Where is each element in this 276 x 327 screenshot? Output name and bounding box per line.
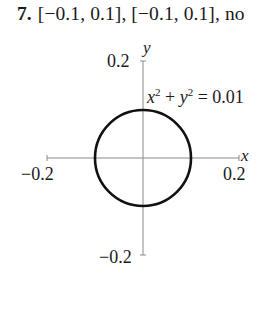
y-tick-label-max: 0.2: [107, 52, 130, 70]
x-tick-label-min: −0.2: [21, 165, 54, 183]
equation-label: x2 + y2 = 0.01: [147, 88, 244, 106]
y-tick-label-min: −0.2: [99, 248, 132, 266]
y-axis-label: y: [143, 39, 151, 56]
x-tick-label-max: 0.2: [223, 165, 246, 183]
x-axis-label: x: [241, 147, 249, 164]
